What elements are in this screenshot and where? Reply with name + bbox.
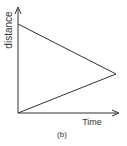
y-axis: [15, 7, 21, 113]
line-lower: [18, 74, 116, 113]
x-axis-label: Time: [82, 117, 102, 127]
figure-caption: (b): [57, 130, 67, 139]
x-axis: [18, 110, 119, 116]
distance-time-graph: distance Time (b): [0, 0, 127, 146]
line-upper: [18, 24, 116, 74]
y-axis-label: distance: [3, 11, 14, 49]
